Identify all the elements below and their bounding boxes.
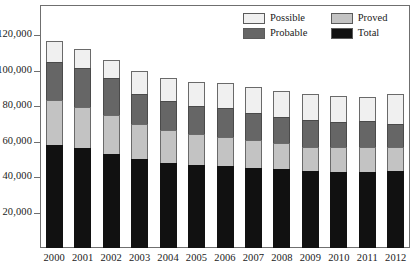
x-axis-label-2006: 2006 [211, 252, 239, 263]
x-axis-label-2004: 2004 [154, 252, 182, 263]
bar-group-2006[interactable] [217, 5, 234, 248]
stacked-bar-chart: 20,00040,00060,00080,000100,000120,000 2… [0, 0, 414, 279]
bar-group-2008[interactable] [273, 5, 290, 248]
bar-segment-possible-2003[interactable] [131, 71, 148, 94]
bar-segment-proved-2005[interactable] [188, 134, 205, 165]
x-axis-label-2011: 2011 [353, 252, 381, 263]
bar-segment-possible-2006[interactable] [217, 83, 234, 108]
bar-segment-proved-2004[interactable] [160, 130, 177, 163]
bar-group-2010[interactable] [330, 5, 347, 248]
legend-swatch-icon-proved [331, 13, 353, 24]
bar-segment-possible-2010[interactable] [330, 96, 347, 122]
x-axis-label-2001: 2001 [68, 252, 96, 263]
bar-segment-total-2006[interactable] [217, 166, 234, 248]
bar-segment-probable-2008[interactable] [273, 117, 290, 144]
chart-legend: PossibleProvedProbableTotal [243, 12, 403, 39]
bar-segment-possible-2005[interactable] [188, 82, 205, 106]
y-tick-label: 120,000 [0, 28, 32, 39]
bar-segment-probable-2000[interactable] [46, 62, 63, 100]
legend-item-possible[interactable]: Possible [243, 12, 323, 24]
bar-segment-possible-2001[interactable] [74, 49, 91, 68]
x-axis-label-2005: 2005 [182, 252, 210, 263]
legend-swatch-icon-possible [243, 13, 265, 24]
x-axis-label-2009: 2009 [296, 252, 324, 263]
x-axis-label-2000: 2000 [40, 252, 68, 263]
bar-segment-probable-2002[interactable] [103, 78, 120, 115]
bar-segment-proved-2001[interactable] [74, 107, 91, 148]
bar-segment-total-2003[interactable] [131, 159, 148, 248]
bar-segment-proved-2012[interactable] [387, 147, 404, 171]
x-axis-label-2007: 2007 [239, 252, 267, 263]
bar-segment-possible-2007[interactable] [245, 87, 262, 113]
legend-label-proved: Proved [358, 12, 388, 24]
y-axis: 20,00040,00060,00080,000100,000120,000 [0, 0, 40, 279]
bar-segment-proved-2006[interactable] [217, 137, 234, 166]
x-axis-label-2008: 2008 [268, 252, 296, 263]
legend-swatch-icon-probable [243, 28, 265, 39]
legend-label-total: Total [358, 27, 379, 39]
bars-layer [40, 5, 410, 248]
bar-segment-probable-2004[interactable] [160, 101, 177, 130]
bar-group-2007[interactable] [245, 5, 262, 248]
bar-group-2011[interactable] [359, 5, 376, 248]
bar-segment-probable-2006[interactable] [217, 108, 234, 137]
y-tick-label: 100,000 [0, 64, 32, 75]
y-tick-label: 60,000 [3, 135, 32, 146]
bar-group-2003[interactable] [131, 5, 148, 248]
bar-segment-proved-2003[interactable] [131, 124, 148, 159]
bar-segment-proved-2000[interactable] [46, 100, 63, 145]
legend-swatch-icon-total [331, 28, 353, 39]
bar-segment-total-2001[interactable] [74, 148, 91, 248]
bar-segment-proved-2011[interactable] [359, 147, 376, 172]
x-axis-labels: 2000200120022003200420052006200720082009… [40, 252, 410, 274]
legend-item-probable[interactable]: Probable [243, 27, 323, 39]
bar-segment-proved-2008[interactable] [273, 143, 290, 169]
bar-group-2005[interactable] [188, 5, 205, 248]
x-axis-label-2010: 2010 [325, 252, 353, 263]
bar-segment-possible-2002[interactable] [103, 60, 120, 77]
bar-segment-total-2007[interactable] [245, 168, 262, 248]
bar-segment-total-2010[interactable] [330, 172, 347, 248]
bar-group-2002[interactable] [103, 5, 120, 248]
bar-segment-total-2008[interactable] [273, 169, 290, 248]
bar-segment-total-2000[interactable] [46, 145, 63, 248]
x-axis-label-2012: 2012 [382, 252, 410, 263]
legend-item-proved[interactable]: Proved [331, 12, 403, 24]
bar-segment-total-2004[interactable] [160, 163, 177, 248]
legend-label-probable: Probable [270, 27, 307, 39]
bar-segment-possible-2012[interactable] [387, 94, 404, 125]
bar-segment-proved-2002[interactable] [103, 115, 120, 154]
bar-group-2000[interactable] [46, 5, 63, 248]
bar-group-2012[interactable] [387, 5, 404, 248]
bar-segment-total-2005[interactable] [188, 165, 205, 248]
x-axis-label-2002: 2002 [97, 252, 125, 263]
bar-segment-total-2011[interactable] [359, 172, 376, 248]
bar-segment-probable-2009[interactable] [302, 120, 319, 147]
bar-group-2001[interactable] [74, 5, 91, 248]
bar-segment-total-2002[interactable] [103, 154, 120, 248]
bar-segment-possible-2008[interactable] [273, 91, 290, 117]
bar-group-2009[interactable] [302, 5, 319, 248]
bar-group-2004[interactable] [160, 5, 177, 248]
legend-item-total[interactable]: Total [331, 27, 403, 39]
bar-segment-probable-2011[interactable] [359, 121, 376, 147]
bar-segment-probable-2010[interactable] [330, 122, 347, 148]
bar-segment-probable-2007[interactable] [245, 113, 262, 140]
bar-segment-total-2009[interactable] [302, 171, 319, 248]
bar-segment-proved-2007[interactable] [245, 140, 262, 168]
bar-segment-total-2012[interactable] [387, 171, 404, 248]
y-tick-label: 80,000 [3, 99, 32, 110]
bar-segment-possible-2000[interactable] [46, 41, 63, 61]
y-tick-label: 20,000 [3, 206, 32, 217]
bar-segment-possible-2011[interactable] [359, 97, 376, 122]
y-tick-label: 40,000 [3, 170, 32, 181]
bar-segment-possible-2004[interactable] [160, 78, 177, 101]
bar-segment-probable-2003[interactable] [131, 94, 148, 124]
bar-segment-possible-2009[interactable] [302, 94, 319, 120]
bar-segment-proved-2009[interactable] [302, 147, 319, 172]
bar-segment-probable-2001[interactable] [74, 68, 91, 107]
bar-segment-proved-2010[interactable] [330, 147, 347, 172]
x-axis-label-2003: 2003 [125, 252, 153, 263]
bar-segment-probable-2005[interactable] [188, 106, 205, 134]
bar-segment-probable-2012[interactable] [387, 124, 404, 147]
